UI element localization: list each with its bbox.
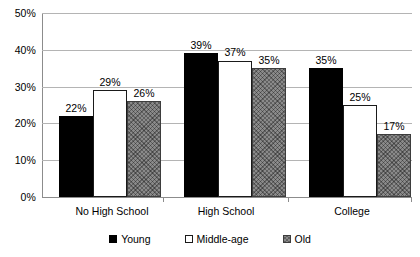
y-axis-tick-label: 0% (0, 192, 36, 202)
bar-value-label: 35% (244, 55, 294, 66)
legend-label: Young (121, 233, 150, 245)
bar-value-label: 17% (369, 121, 419, 132)
plot-area: 22% 29% 26% 39% 37% 35% 35% 25% 17% (42, 13, 412, 197)
bar-value-label: 25% (335, 92, 385, 103)
bar-no-high-school-young (59, 116, 93, 197)
gridline-50 (42, 13, 412, 14)
x-axis-tick-mark (288, 197, 289, 202)
y-axis-tick-label: 30% (0, 82, 36, 92)
bar-college-young (309, 68, 343, 197)
gridline-baseline-0 (42, 197, 412, 198)
bar-value-label: 22% (51, 103, 101, 114)
x-axis-tick-mark (163, 197, 164, 202)
chart-legend: Young Middle-age Old (0, 233, 420, 245)
x-axis-category-label-college: College (292, 205, 412, 217)
bar-high-school-middle-age (218, 61, 252, 197)
bar-value-label: 26% (119, 88, 169, 99)
solid-black-square-icon (109, 235, 117, 243)
y-axis-tick-label: 50% (0, 8, 36, 18)
gray-hatched-square-icon (283, 235, 291, 243)
bar-value-label: 29% (85, 77, 135, 88)
bar-high-school-young (184, 53, 218, 197)
legend-item-middle-age: Middle-age (185, 233, 249, 245)
outline-white-square-icon (185, 235, 193, 243)
legend-label: Old (295, 233, 311, 245)
bar-value-label: 35% (301, 55, 351, 66)
y-axis-tick-label: 20% (0, 118, 36, 128)
y-axis-tick-label: 40% (0, 45, 36, 55)
legend-label: Middle-age (197, 233, 249, 245)
bar-no-high-school-old (127, 101, 161, 197)
bar-college-middle-age (343, 105, 377, 197)
bar-high-school-old (252, 68, 286, 197)
y-axis-tick-label: 10% (0, 155, 36, 165)
grouped-bar-chart: 22% 29% 26% 39% 37% 35% 35% 25% 17% 50% … (0, 0, 420, 257)
x-axis-category-label-high-school: High School (166, 205, 286, 217)
legend-item-old: Old (283, 233, 311, 245)
bar-college-old (377, 134, 411, 197)
legend-item-young: Young (109, 233, 150, 245)
x-axis-category-label-no-high-school: No High School (52, 205, 172, 217)
x-axis-tick-mark (411, 197, 412, 202)
